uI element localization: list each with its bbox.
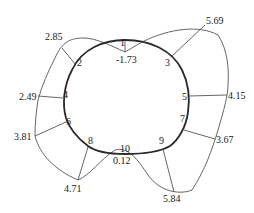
point-label-8: 8: [88, 135, 93, 146]
value-label-5: 4.15: [228, 90, 246, 101]
value-label-1: -1.73: [116, 54, 137, 65]
value-label-3: 5.69: [206, 15, 224, 26]
point-label-2: 2: [77, 57, 82, 68]
value-label-4: 2.49: [19, 91, 37, 102]
point-label-3: 3: [165, 57, 170, 68]
point-label-1: 1: [120, 37, 125, 48]
point-label-9: 9: [159, 135, 164, 146]
value-label-8: 4.71: [64, 183, 82, 194]
point-label-4: 4: [63, 89, 68, 100]
value-label-6: 3.81: [14, 131, 32, 142]
point-label-5: 5: [182, 91, 187, 102]
value-label-2: 2.85: [45, 31, 63, 42]
point-label-7: 7: [180, 113, 185, 124]
value-label-10: 0.12: [113, 155, 131, 166]
value-label-9: 5.84: [163, 193, 181, 204]
point-label-10: 10: [120, 143, 130, 154]
stress-diagram: 1 2 3 4 5 6 7 8 9 10 -1.73 2.85 5.69 2.4…: [0, 0, 254, 213]
point-label-6: 6: [66, 116, 71, 127]
value-label-7: 3.67: [216, 134, 234, 145]
